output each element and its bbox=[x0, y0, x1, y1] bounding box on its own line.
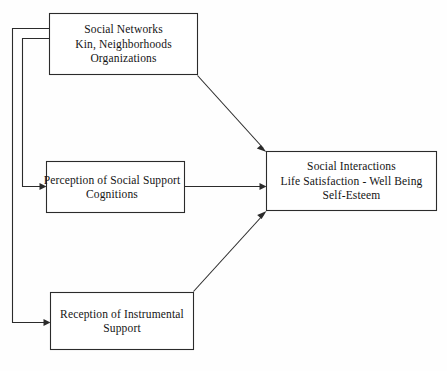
node-outcomes[interactable] bbox=[267, 152, 437, 211]
node-reception-of-instrumental-support[interactable] bbox=[51, 293, 194, 350]
node-perception-of-social-support[interactable] bbox=[47, 162, 185, 213]
diagram-canvas: Social Networks Kin, Neighborhoods Organ… bbox=[0, 0, 447, 371]
edge-networks-to-perception bbox=[23, 39, 50, 191]
edge-networks-to-outcomes bbox=[198, 76, 267, 153]
diagram-svg bbox=[0, 0, 447, 371]
node-social-networks[interactable] bbox=[50, 14, 198, 75]
edge-networks-to-reception bbox=[13, 29, 51, 327]
edge-perception-to-outcomes bbox=[185, 183, 267, 190]
edge-reception-to-outcomes bbox=[194, 211, 267, 292]
